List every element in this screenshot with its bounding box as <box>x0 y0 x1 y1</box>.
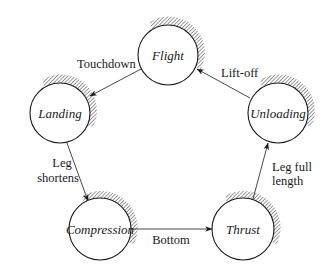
label-bottom: Bottom <box>152 233 190 247</box>
label-touchdown: Touchdown <box>77 57 137 71</box>
state-thrust: Thrust <box>212 198 274 260</box>
state-label-landing: Landing <box>37 106 82 121</box>
state-label-unloading: Unloading <box>250 106 306 121</box>
edge-touchdown <box>90 69 141 96</box>
state-landing: Landing <box>30 83 90 143</box>
label-leg-shortens-1: Leg <box>52 156 72 170</box>
state-flight: Flight <box>138 25 198 85</box>
label-leg-shortens-2: shortens <box>37 171 79 185</box>
edge-leg-full-length <box>253 143 268 199</box>
states: Flight Landing Unloading Compression Thr… <box>30 25 308 260</box>
state-unloading: Unloading <box>248 83 308 143</box>
label-leg-full-length-1: Leg full <box>272 160 312 174</box>
state-label-flight: Flight <box>151 48 184 63</box>
label-lift-off: Lift-off <box>221 66 259 80</box>
label-leg-full-length-2: length <box>272 174 304 188</box>
state-label-compression: Compression <box>66 222 134 237</box>
state-label-thrust: Thrust <box>226 222 260 237</box>
state-diagram: Flight Landing Unloading Compression Thr… <box>0 0 332 280</box>
